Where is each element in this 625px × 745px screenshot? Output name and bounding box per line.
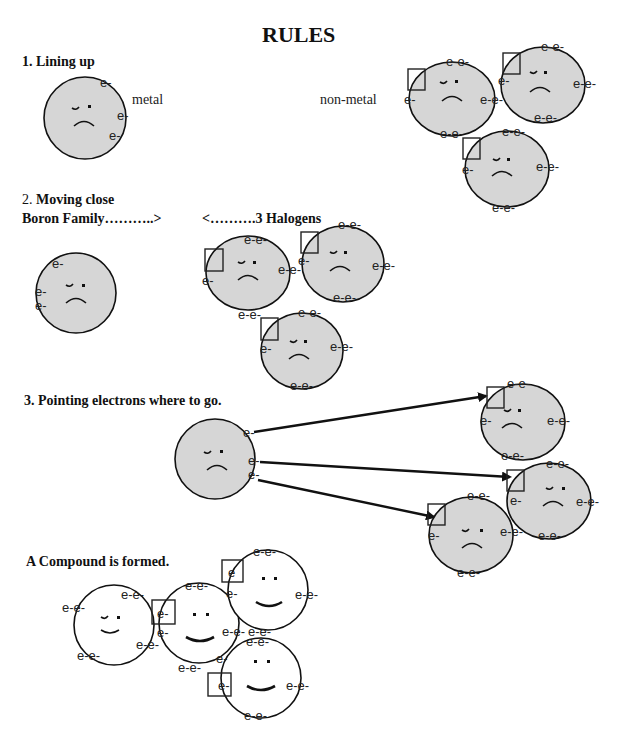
svg-text:e-e-: e-e- (492, 200, 515, 215)
svg-text:e-e-: e-e- (480, 92, 503, 107)
svg-text:e-e-: e-e- (121, 587, 144, 602)
svg-text:e-: e- (157, 625, 169, 640)
svg-text:e-: e- (510, 493, 522, 508)
page-title: RULES (262, 22, 335, 47)
svg-text:e-: e- (35, 298, 47, 313)
svg-text:e-e-: e-e- (547, 413, 570, 428)
svg-text:e-e-: e-e- (576, 494, 599, 509)
svg-text:e-: e- (52, 256, 64, 271)
svg-text:e-e-: e-e- (246, 634, 269, 649)
arrow-icon (254, 396, 486, 432)
svg-text:e-: e- (480, 413, 492, 428)
halogens-label: <……….3 Halogens (202, 211, 322, 226)
svg-text:e-e-: e-e- (178, 660, 201, 675)
boron-family-label: Boron Family………..> (22, 211, 162, 226)
svg-text:e-: e- (243, 425, 255, 440)
svg-text:e-e-: e-e- (295, 587, 318, 602)
nonmetal-atom: e-e- e- e-e- e-e- (404, 54, 503, 141)
svg-text:e-e-: e-e- (136, 637, 159, 652)
svg-text:e-: e- (462, 162, 474, 177)
svg-text:e-e-: e-e- (185, 578, 208, 593)
svg-text:e-: e- (248, 467, 260, 482)
nonmetal-atom: e-e- e- e-e- e-e- (498, 39, 596, 125)
svg-text:e-e-: e-e- (507, 376, 530, 391)
svg-text:e-e-: e-e- (62, 600, 85, 615)
rules-diagram: RULES 1. Lining up e- e- e- metal non-me… (0, 0, 625, 745)
donor-atom: e- e- e- (175, 419, 260, 499)
svg-text:e-e-: e-e- (238, 307, 261, 322)
svg-text:e-e-: e-e- (534, 110, 557, 125)
svg-text:e-e-: e-e- (541, 39, 564, 54)
svg-text:e-e-: e-e- (77, 648, 100, 663)
compound-atom-boron: e-e- e-e- e-e- e-e- (62, 585, 159, 665)
svg-text:e-e-: e-e- (573, 76, 596, 91)
svg-text:e: e (228, 565, 235, 580)
svg-text:e-e-: e-e- (244, 708, 267, 723)
arrow-icon (258, 480, 434, 517)
halogen-atom: e-e- e- e-e- e-e- (298, 217, 395, 305)
compound-heading: A Compound is formed. (26, 554, 169, 569)
svg-text:e-: e- (157, 606, 169, 621)
svg-text:e-e-: e-e- (502, 124, 525, 139)
svg-text:e-: e- (298, 253, 310, 268)
svg-text:e-: e- (226, 586, 238, 601)
svg-text:e-: e- (100, 75, 112, 90)
svg-text:e-e-: e-e- (467, 488, 490, 503)
svg-text:e-e-: e-e- (298, 305, 321, 320)
svg-text:e-e-: e-e- (501, 448, 524, 463)
svg-text:e-: e- (109, 128, 121, 143)
section-3-heading: 3. Pointing electrons where to go. (24, 393, 221, 408)
halogen-atom: e-e- e- e-e- e-e- (202, 232, 301, 322)
svg-text:e-e-: e-e- (338, 217, 361, 232)
svg-text:e-e-: e-e- (286, 678, 309, 693)
svg-text:e-e-: e-e- (222, 624, 245, 639)
section-1-heading: 1. Lining up (22, 54, 95, 69)
nonmetal-atom: e-e- e- e-e- e-e- (462, 124, 559, 215)
svg-text:e-e-: e-e- (440, 126, 463, 141)
svg-text:e-e-: e-e- (330, 339, 353, 354)
svg-text:e-: e- (218, 678, 230, 693)
svg-text:e-: e- (216, 651, 228, 666)
svg-text:e-: e- (260, 341, 272, 356)
svg-text:e-e-: e-e- (546, 456, 569, 471)
svg-text:e-: e- (202, 273, 214, 288)
arrow-icon (260, 462, 510, 477)
svg-text:e-e-: e-e- (457, 565, 480, 580)
svg-text:e-e-: e-e- (333, 290, 356, 305)
svg-text:e-e-: e-e- (538, 528, 561, 543)
metal-label: metal (132, 92, 163, 107)
nonmetal-label: non-metal (320, 92, 377, 107)
svg-text:e-e-: e-e- (290, 378, 313, 393)
svg-text:e-e-: e-e- (500, 524, 523, 539)
svg-text:e-e-: e-e- (244, 232, 267, 247)
boron-atom: e- e- e- (35, 253, 116, 333)
svg-text:e-e-: e-e- (446, 54, 469, 69)
section-2-heading: 2. Moving close (22, 192, 114, 207)
svg-text:e-: e- (498, 73, 510, 88)
svg-text:e-e-: e-e- (253, 544, 276, 559)
svg-text:e-e-: e-e- (372, 258, 395, 273)
svg-text:e-e-: e-e- (536, 159, 559, 174)
acceptor-atom: e-e- e- e-e- e-e- (480, 376, 570, 463)
svg-text:e-: e- (35, 284, 47, 299)
halogen-atom: e-e- e- e-e- e-e- (260, 305, 353, 393)
svg-text:e-: e- (428, 528, 440, 543)
metal-atom: e- e- e- (44, 75, 129, 159)
svg-text:e-: e- (117, 108, 129, 123)
svg-text:e-: e- (404, 92, 416, 107)
svg-text:e-: e- (248, 453, 260, 468)
